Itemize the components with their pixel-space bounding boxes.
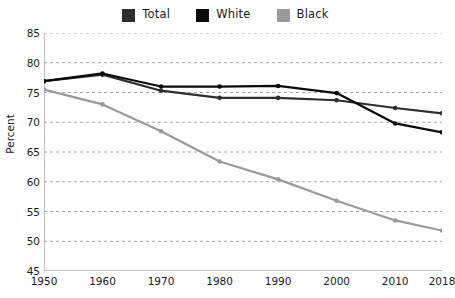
series-black [44, 87, 442, 233]
x-tick-label: 1990 [265, 275, 292, 287]
y-tick-label: 65 [18, 147, 40, 158]
data-point [217, 96, 222, 101]
y-axis-tick-labels: 455055606570758085 [12, 33, 40, 271]
data-point [159, 84, 164, 89]
x-tick-label: 2000 [323, 275, 350, 287]
x-tick-label: 2018 [429, 275, 455, 287]
legend-label: Black [297, 9, 329, 21]
y-tick-label: 75 [18, 87, 40, 98]
data-point [334, 198, 339, 203]
data-point [276, 177, 281, 182]
data-point [217, 159, 222, 164]
x-tick-label: 1970 [148, 275, 175, 287]
data-point [159, 129, 164, 134]
gridlines [44, 33, 442, 241]
y-tick-label: 50 [18, 236, 40, 247]
x-axis-tick-labels: 19501960197019801990200020102018 [44, 275, 442, 293]
legend-label: Total [142, 9, 170, 21]
y-tick-label: 60 [18, 177, 40, 188]
data-point [440, 228, 442, 233]
data-point [44, 79, 46, 84]
legend-item-white: White [196, 9, 250, 22]
plot-area [44, 33, 442, 271]
legend-label: White [216, 9, 250, 21]
series-total [44, 72, 442, 115]
plot-svg [44, 33, 442, 271]
legend-item-total: Total [122, 9, 170, 22]
x-tick-label: 2010 [382, 275, 409, 287]
y-tick-label: 80 [18, 58, 40, 69]
legend-swatch-icon [122, 9, 135, 22]
data-point [276, 84, 281, 89]
data-point [393, 106, 398, 111]
legend-swatch-icon [277, 9, 290, 22]
data-point [100, 71, 105, 76]
data-point [440, 130, 442, 135]
data-point [217, 84, 222, 89]
data-point [159, 88, 164, 93]
series-line [44, 90, 442, 231]
data-point [440, 111, 442, 116]
data-point [334, 98, 339, 103]
data-point [393, 218, 398, 223]
y-axis-title: Percent [4, 104, 16, 164]
x-tick-label: 1960 [89, 275, 116, 287]
y-tick-label: 85 [18, 28, 40, 39]
data-point [276, 96, 281, 101]
series-line [44, 75, 442, 114]
legend-item-black: Black [277, 9, 329, 22]
data-point [100, 102, 105, 107]
data-point [393, 121, 398, 126]
legend-swatch-icon [196, 9, 209, 22]
y-tick-label: 70 [18, 117, 40, 128]
chart-legend: TotalWhiteBlack [0, 4, 451, 26]
x-tick-label: 1980 [206, 275, 233, 287]
y-tick-label: 55 [18, 206, 40, 217]
data-point [334, 91, 339, 96]
x-tick-label: 1950 [31, 275, 58, 287]
